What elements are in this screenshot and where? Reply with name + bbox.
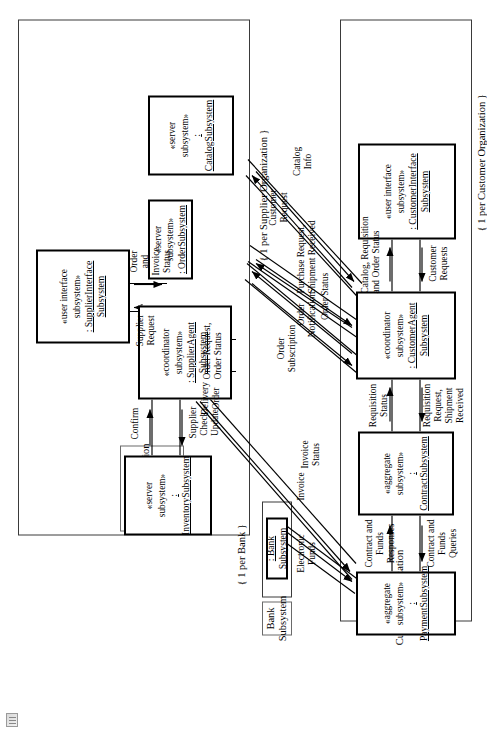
customer-organization-constraint: { 1 per Customer Organization } — [476, 94, 487, 231]
node-customer-interface-name: : CustomerInterface Subsystem — [407, 153, 432, 229]
node-bank-name: : Bank Subsystem — [265, 527, 290, 569]
label-electronic-funds: Electronic Funds — [296, 525, 318, 581]
label-order-and-invoice-status: Order and Invoice Status — [129, 241, 173, 281]
node-contract-stereotype: «aggregate subsystem» — [381, 435, 405, 511]
label-invoice-status: Invoice Status — [300, 433, 322, 475]
label-order-status: Order Status — [320, 261, 331, 331]
bank-constraint: { 1 per Bank } — [236, 524, 247, 585]
label-customer-request: Customer Request — [268, 181, 290, 233]
label-confirm: Confirm — [130, 401, 141, 445]
node-supplier-interface-stereotype: «user interface subsystem» — [58, 269, 82, 324]
label-purchase-request-shipment-received: Purchase Request, Shipment Received — [296, 187, 318, 293]
node-inventory-name: : InventorySubsystem — [168, 456, 193, 535]
label-contract-and-funds-responses: Contract and Funds Responses — [364, 515, 397, 571]
node-order-name: : OrderSubsystem — [176, 204, 188, 273]
label-requisition-status: Requisition Status — [368, 379, 390, 431]
label-requisition-request-shipment-received: Requisition Request, Shipment Received — [422, 379, 466, 431]
label-customer-requests: Customer Requests — [428, 237, 450, 289]
label-catalog-info: Catalog Info — [292, 139, 314, 183]
label-contract-and-funds-queries: Contract and Funds Queries — [426, 515, 459, 571]
scan-corner-artifact — [6, 713, 18, 727]
node-customer-agent-subsystem[interactable]: «coordinator subsystem» : CustomerAgent … — [356, 291, 456, 379]
label-catalog-requisition-and-order-status: Catalog, Requisition and Order Status — [360, 175, 382, 293]
bank-tag-label: Bank Subsystem — [265, 595, 290, 641]
label-delivery-order: Delivery Order — [200, 375, 222, 421]
node-contract-name: : ContractSubsystem — [406, 435, 431, 511]
node-catalog-subsystem[interactable]: «server subsystem» : CatalogSubsystem — [148, 95, 234, 175]
node-payment-name: : PaymentSubsystem — [406, 565, 431, 640]
node-supplier-interface-subsystem[interactable]: «user interface subsystem» : SupplierInt… — [36, 249, 130, 343]
node-inventory-stereotype: «server subsystem» — [143, 459, 167, 531]
node-payment-stereotype: «aggregate subsystem» — [381, 575, 405, 631]
node-supplier-interface-name: : SupplierInterface Subsystem — [83, 260, 108, 332]
node-customer-interface-stereotype: «user interface subsystem» — [382, 164, 406, 219]
label-order-subscription: Order Subscription — [276, 317, 298, 379]
node-bank-subsystem[interactable]: : Bank Subsystem — [266, 517, 288, 579]
node-customer-agent-name: : CustomerAgent Subsystem — [406, 302, 431, 368]
bank-tag: Bank Subsystem — [262, 601, 292, 635]
label-supplier-request: Supplier Request — [135, 307, 157, 353]
node-customer-agent-stereotype: «coordinator subsystem» — [381, 295, 405, 375]
node-catalog-stereotype: «server subsystem» — [166, 99, 190, 171]
label-order-request-order-status: Order Request, Order Status — [202, 283, 224, 379]
node-payment-subsystem[interactable]: «aggregate subsystem» : PaymentSubsystem — [356, 571, 456, 635]
node-supplier-agent-stereotype: «coordinator subsystem» — [160, 328, 184, 376]
node-contract-subsystem[interactable]: «aggregate subsystem» : ContractSubsyste… — [358, 431, 454, 515]
node-catalog-name: : CatalogSubsystem — [191, 99, 216, 171]
node-inventory-subsystem[interactable]: «server subsystem» : InventorySubsystem — [124, 455, 212, 535]
